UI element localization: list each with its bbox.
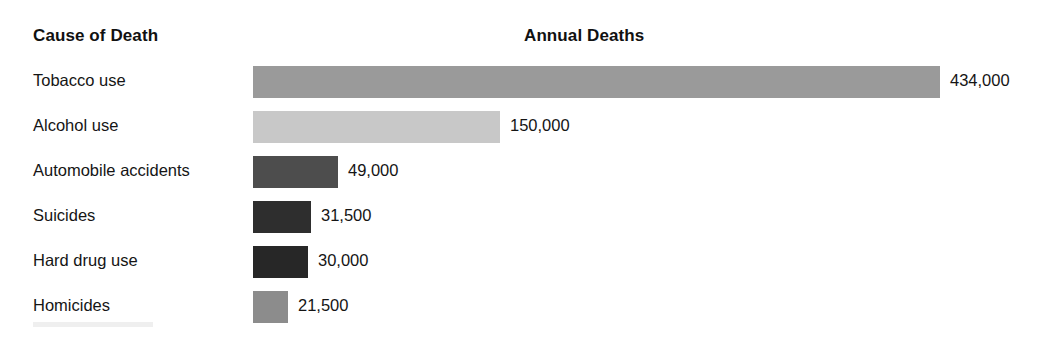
bar-track: 30,000 xyxy=(253,242,1058,287)
bar-category-label: Hard drug use xyxy=(33,251,138,270)
bar-category-label: Alcohol use xyxy=(33,116,118,135)
bar-row: Tobacco use434,000 xyxy=(0,62,1058,107)
bar-value-label: 31,500 xyxy=(321,206,371,225)
bar-rect xyxy=(253,111,500,143)
bar-row: Suicides31,500 xyxy=(0,197,1058,242)
bar-rect xyxy=(253,66,940,98)
bar-category-label: Automobile accidents xyxy=(33,161,190,180)
column-heading-annual-deaths: Annual Deaths xyxy=(524,26,644,46)
bar-track: 21,500 xyxy=(253,287,1058,332)
bar-row: Homicides21,500 xyxy=(0,287,1058,332)
scan-artifact xyxy=(33,322,153,327)
bar-track: 150,000 xyxy=(253,107,1058,152)
bar-value-label: 30,000 xyxy=(318,251,368,270)
bar-rect xyxy=(253,246,308,278)
bar-value-label: 434,000 xyxy=(950,71,1010,90)
bar-value-label: 150,000 xyxy=(510,116,570,135)
bar-value-label: 21,500 xyxy=(298,296,348,315)
bar-category-label: Tobacco use xyxy=(33,71,126,90)
bar-category-label: Homicides xyxy=(33,296,110,315)
bar-track: 434,000 xyxy=(253,62,1058,107)
bar-rect xyxy=(253,156,338,188)
bar-chart: Cause of Death Annual Deaths Tobacco use… xyxy=(0,0,1058,340)
column-heading-cause-of-death: Cause of Death xyxy=(33,26,158,46)
bar-category-label: Suicides xyxy=(33,206,95,225)
bar-track: 49,000 xyxy=(253,152,1058,197)
bar-row: Hard drug use30,000 xyxy=(0,242,1058,287)
bar-rect xyxy=(253,201,311,233)
bar-rect xyxy=(253,291,288,323)
chart-header-row: Cause of Death Annual Deaths xyxy=(0,26,1058,52)
bar-value-label: 49,000 xyxy=(348,161,398,180)
bar-row: Alcohol use150,000 xyxy=(0,107,1058,152)
bar-row: Automobile accidents49,000 xyxy=(0,152,1058,197)
bar-track: 31,500 xyxy=(253,197,1058,242)
bar-rows: Tobacco use434,000Alcohol use150,000Auto… xyxy=(0,62,1058,332)
